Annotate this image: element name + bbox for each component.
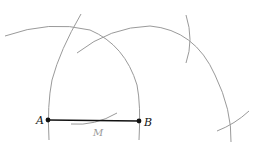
point-b [137,119,142,124]
label-m: M [92,127,104,138]
arc-mark-bottom-right [217,111,249,131]
segment-ab [48,120,139,121]
label-a: A [35,114,44,127]
label-b: B [143,116,152,129]
arc-mark-midpoint [71,113,117,124]
arc-centered-b [48,14,81,140]
arc-right [77,26,231,142]
point-a [46,118,51,123]
construction-diagram: A B M [0,0,263,153]
arc-centered-a [5,26,140,140]
